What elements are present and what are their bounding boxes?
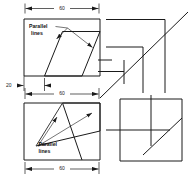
internal-diagonal xyxy=(143,118,182,155)
main-diagonal xyxy=(100,12,188,98)
edge-left-slope xyxy=(36,103,63,146)
note-label-lower-line1: Parallel xyxy=(39,141,58,147)
dim-label-middle: 60 xyxy=(59,90,65,96)
edge-long-diagonal xyxy=(63,103,83,160)
dimension-bottom-60: 60 xyxy=(25,162,99,174)
dim-label-20: 20 xyxy=(6,82,12,88)
lower-left-square: Parallel lines xyxy=(24,103,100,160)
lower-right-construction xyxy=(106,95,182,161)
dimension-top-60: 60 xyxy=(25,4,99,14)
leader-arrow-to-left-edge xyxy=(57,28,68,39)
leader-stem xyxy=(56,27,68,29)
upper-left-square: Parallel lines xyxy=(24,19,100,76)
dim-label-top: 60 xyxy=(59,5,65,11)
note-label-upper-line2: lines xyxy=(31,30,43,36)
leader-arrow-to-right-edge xyxy=(68,28,93,48)
parallelogram-edge-left xyxy=(45,32,63,77)
dimension-offset-20: 20 xyxy=(6,76,51,91)
dimension-middle-60: 60 xyxy=(25,88,99,99)
dim-label-bottom: 60 xyxy=(59,165,65,171)
technical-drawing: 60 Parallel lines 20 xyxy=(0,0,194,179)
note-label-upper-line1: Parallel xyxy=(29,23,48,29)
parallelogram-edge-right xyxy=(82,32,100,77)
upper-right-construction xyxy=(98,12,188,98)
drawing-canvas: 60 Parallel lines 20 xyxy=(0,0,194,179)
note-label-lower-line2: lines xyxy=(39,148,51,154)
